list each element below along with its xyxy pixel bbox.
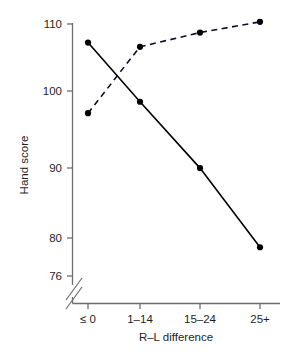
x-axis-title: R–L difference [139,331,213,343]
x-tick-label-1: 1–14 [127,313,153,325]
series-layer [85,19,263,251]
y-axis-title: Hand score [18,136,30,195]
y-tick-label-110: 110 [44,18,62,30]
data-point [137,99,143,105]
data-point [197,165,203,171]
x-tick-label-2: 15–24 [184,313,217,325]
x-tick-label-3: 25+ [250,313,270,325]
data-point [137,44,143,50]
x-tick-label-0: ≤ 0 [80,313,96,325]
data-point [257,19,263,25]
y-tick-label-76: 76 [49,270,62,282]
line-chart-plot: 110 100 90 80 76 Hand score ≤ 0 1–14 15–… [0,0,292,354]
data-point [257,244,263,250]
data-point [197,29,203,35]
axis-break-slash-1 [66,278,82,300]
y-tick-label-90: 90 [49,162,62,174]
y-tick-label-100: 100 [43,85,62,97]
data-point [85,110,91,116]
series-line-dashed-series [88,22,260,113]
axis-break-slash-2 [66,287,82,309]
series-line-solid-series [88,43,260,248]
chart-figure: 110 100 90 80 76 Hand score ≤ 0 1–14 15–… [0,0,292,354]
data-point [85,39,91,45]
y-tick-label-80: 80 [49,232,62,244]
